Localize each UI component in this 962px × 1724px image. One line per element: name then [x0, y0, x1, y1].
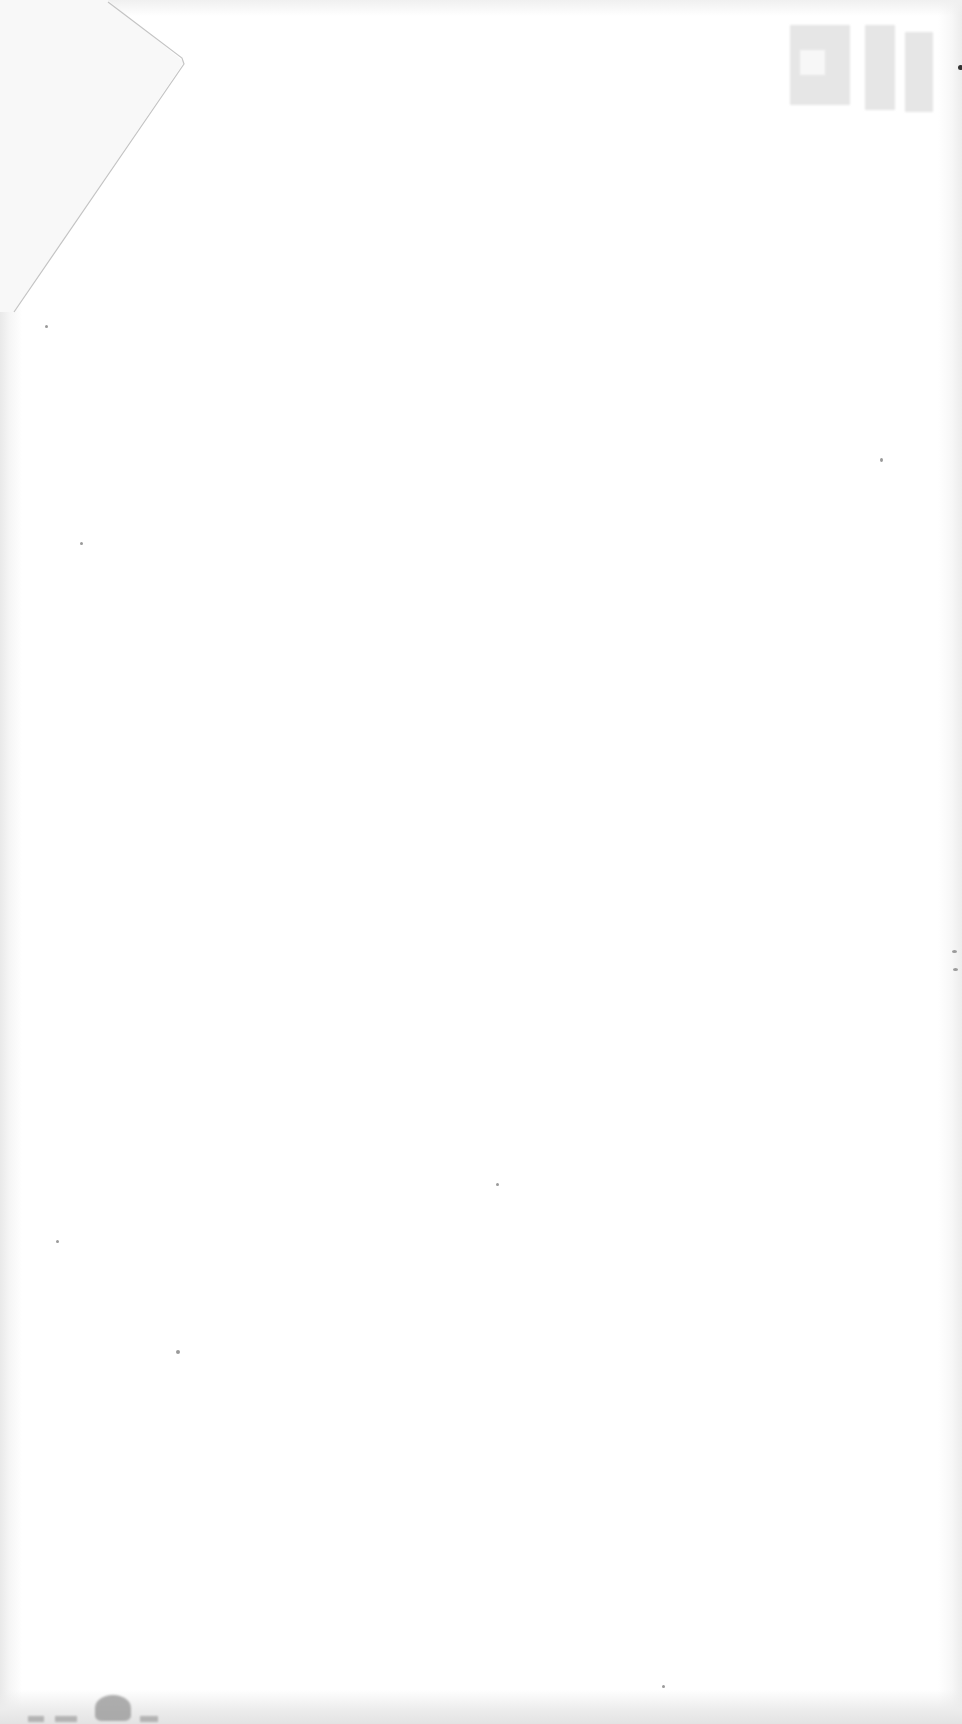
bleed-through-stamp: [790, 20, 950, 115]
scan-smudge: [28, 1716, 44, 1722]
speck: [80, 542, 83, 545]
blank-page: [0, 0, 962, 1724]
folded-corner: [0, 0, 200, 320]
speck: [176, 1350, 180, 1354]
speck: [56, 1240, 59, 1243]
speck: [45, 325, 48, 328]
speck: [953, 968, 958, 971]
speck: [662, 1685, 665, 1688]
speck: [952, 950, 957, 953]
speck: [880, 458, 883, 462]
top-edge-shadow: [100, 0, 962, 16]
speck: [496, 1183, 499, 1186]
scan-smudge: [55, 1716, 77, 1722]
scan-smudge: [95, 1695, 131, 1721]
scan-smudge: [140, 1716, 158, 1722]
